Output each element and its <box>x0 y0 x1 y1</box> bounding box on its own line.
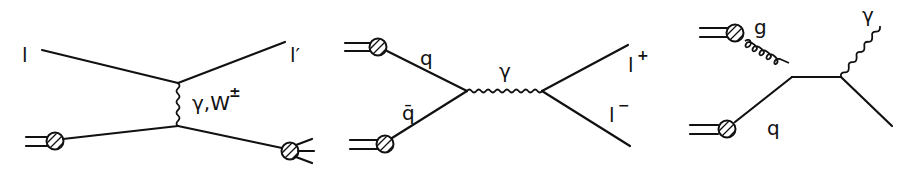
jet-line-1 <box>296 139 312 145</box>
quark-line <box>735 77 792 122</box>
label-photon: γ <box>862 3 874 27</box>
lepton-plus-line <box>542 45 628 91</box>
jet-line-3 <box>296 157 312 163</box>
incoming-lepton-line <box>42 50 178 83</box>
label-quark: q <box>420 46 433 70</box>
proton-blob <box>45 131 67 153</box>
feynman-diagrams: l l′ γ,W ± q q̄ γ l + l − <box>0 0 922 193</box>
hadron-a-blob <box>725 23 747 45</box>
struck-quark-line <box>63 126 178 139</box>
diagram-dis: l l′ γ,W ± <box>22 42 314 163</box>
scattered-quark-line <box>178 126 282 148</box>
diagram-qcd-compton: g q γ <box>690 3 892 141</box>
lepton-minus-line <box>542 91 630 146</box>
label-incoming-lepton: l <box>22 43 28 67</box>
hadron-a-blob <box>368 37 390 59</box>
photon-wavy <box>467 90 542 93</box>
gluon-curly <box>745 40 789 64</box>
label-gluon: g <box>754 15 767 39</box>
label-quark: q <box>767 116 780 140</box>
diagram-drell-yan: q q̄ γ l + l − <box>345 37 649 156</box>
outgoing-lepton-line <box>178 42 285 83</box>
label-lepton-plus: l <box>628 53 634 77</box>
exchange-boson-wavy <box>177 83 180 126</box>
outgoing-quark-line <box>841 77 892 126</box>
label-exchange-boson: γ,W <box>192 91 230 115</box>
label-outgoing-lepton: l′ <box>290 43 301 67</box>
label-minus-sign: − <box>618 97 630 113</box>
photon-wavy <box>841 26 880 77</box>
label-exchange-charge: ± <box>229 84 241 100</box>
label-photon: γ <box>499 59 511 83</box>
label-plus-sign: + <box>637 47 649 63</box>
label-antiquark: q̄ <box>402 101 415 125</box>
label-lepton-minus: l <box>609 103 615 127</box>
